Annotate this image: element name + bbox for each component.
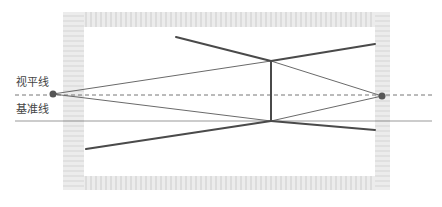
frame-inner — [84, 27, 375, 176]
right-vanishing-point — [379, 93, 386, 100]
frame-bottom — [63, 176, 390, 190]
two-point-perspective-diagram — [0, 0, 442, 207]
frame-left — [63, 12, 84, 190]
frame-right — [375, 12, 390, 190]
left-vanishing-point — [50, 91, 57, 98]
frame-top — [63, 12, 390, 27]
base-line-label: 基准线 — [16, 104, 49, 115]
horizon-line-label: 视平线 — [16, 77, 49, 88]
